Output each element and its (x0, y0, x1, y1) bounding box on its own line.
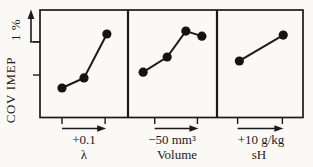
data-point-sh (235, 56, 244, 65)
x-axis-label-volume: Volume (157, 147, 197, 163)
x-axis-label-lambda: λ (81, 147, 87, 163)
x-change-arrow-head (97, 125, 106, 132)
data-point-volume (139, 68, 148, 77)
figure-cov-imep: 1 % COV IMEP +0.1 λ −50 mm³ Volume +10 g… (0, 0, 313, 167)
x-change-arrow-head (189, 125, 198, 132)
y-scale-label: 1 % (8, 13, 24, 47)
x-change-label-volume: −50 mm³ (148, 132, 196, 148)
series-line-sh (239, 35, 283, 61)
x-change-label-sh: +10 g/kg (238, 132, 285, 148)
plot-border (40, 10, 303, 118)
data-point-lambda (57, 83, 66, 92)
data-point-lambda (102, 29, 111, 38)
data-point-volume (163, 52, 172, 61)
x-axis-label-sh: sH (252, 147, 266, 163)
data-point-lambda (79, 73, 88, 82)
series-line-volume (143, 31, 202, 72)
data-point-volume (181, 27, 190, 36)
y-axis-label: COV IMEP (3, 55, 19, 125)
x-change-arrow-head (274, 125, 283, 132)
x-change-label-lambda: +0.1 (72, 132, 96, 148)
data-point-volume (197, 32, 206, 41)
scale-arrow-head (28, 10, 35, 20)
data-point-sh (279, 30, 288, 39)
